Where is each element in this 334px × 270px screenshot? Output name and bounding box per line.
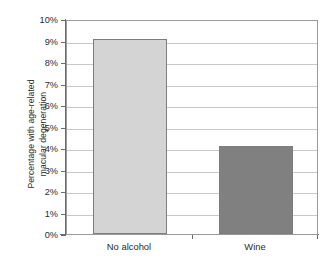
y-axis-tick-label: 7% [30,80,58,90]
x-axis-tick-label: Wine [244,241,265,252]
y-axis-tick-label: 4% [30,144,58,154]
x-axis-tick-label: No alcohol [107,241,151,252]
plot-area [66,20,318,235]
y-axis-tick-label: 0% [30,230,58,240]
x-axis-category-divider-tick [192,235,193,239]
y-axis-tick-mark [61,192,65,193]
x-axis-tick-labels: No alcoholWine [66,241,318,259]
y-axis-tick-mark [61,42,65,43]
y-axis-tick-label: 1% [30,209,58,219]
y-axis-tick-mark [61,63,65,64]
y-axis-tick-label: 9% [30,37,58,47]
bar-chart-figure: Percentage with age-related macular dege… [0,0,334,270]
x-axis-end-tick [317,235,318,239]
y-axis-tick-mark [61,149,65,150]
y-axis-tick-mark [61,128,65,129]
y-axis-tick-label: 10% [30,15,58,25]
y-axis-tick-label: 6% [30,101,58,111]
y-axis-tick-mark [61,85,65,86]
bar [219,146,293,234]
y-axis-tick-mark [61,235,65,236]
y-axis-tick-label: 5% [30,123,58,133]
y-axis-tick-label: 2% [30,187,58,197]
y-axis-tick-labels: 0%1%2%3%4%5%6%7%8%9%10% [32,13,62,235]
y-axis-tick-label: 8% [30,58,58,68]
bars-layer [67,21,317,234]
y-axis-tick-label: 3% [30,166,58,176]
y-axis-tick-mark [61,20,65,21]
y-axis-tick-mark [61,214,65,215]
y-axis-tick-mark [61,106,65,107]
y-axis-tick-mark [61,171,65,172]
bar [93,39,167,234]
